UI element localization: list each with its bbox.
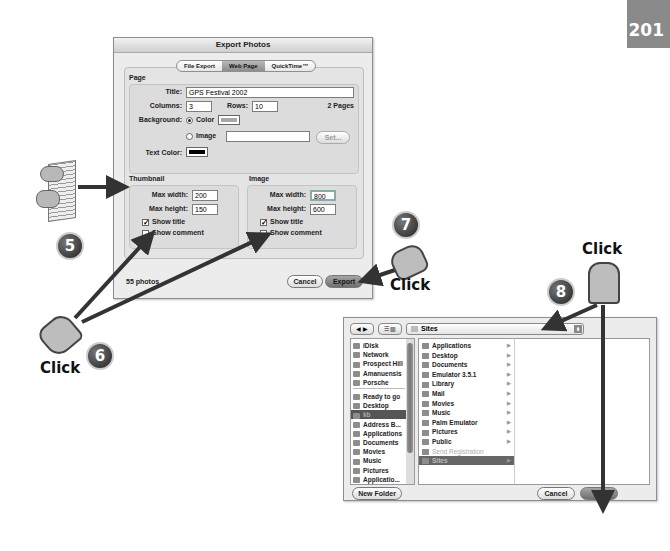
sidebar-item[interactable]: Amanuensis (353, 369, 402, 378)
browser-item[interactable]: Sites▶ (419, 456, 515, 465)
browser-item-label: Emulator 3.5.1 (432, 371, 476, 378)
sidebar-item-label: Prospect Hill (363, 360, 403, 367)
pages-count: 2 Pages (300, 102, 354, 109)
bg-color-radio[interactable] (186, 117, 193, 124)
disclosure-arrow-icon: ▶ (507, 341, 511, 350)
folder-icon (353, 413, 360, 419)
thumb-show-comment-label: Show comment (152, 229, 204, 236)
sidebar-list: iDiskNetworkProspect HillAmanuensisPorsc… (350, 338, 410, 485)
export-button[interactable]: Export (325, 275, 363, 288)
title-input[interactable]: GPS Festival 2002 (186, 87, 354, 98)
sidebar-item-label: Documents (363, 439, 398, 446)
click-label-7: Click (390, 276, 430, 294)
scrollbar-thumb[interactable] (407, 343, 413, 453)
folder-icon (422, 353, 429, 359)
browser-item-label: Movies (432, 400, 454, 407)
browser-item[interactable]: Send Registration (419, 447, 515, 456)
image-max-width-label: Max width: (248, 191, 306, 198)
image-max-height-input[interactable]: 600 (310, 204, 336, 215)
thumb-max-width-input[interactable]: 200 (192, 190, 218, 201)
disclosure-arrow-icon: ▶ (507, 427, 511, 436)
bg-image-radio[interactable] (186, 133, 193, 140)
thumb-show-title-label: Show title (152, 218, 185, 225)
sidebar-item[interactable]: Desktop (353, 401, 389, 410)
sidebar-item[interactable]: Movies (353, 447, 385, 456)
back-forward-buttons[interactable]: ◀ ▶ (350, 323, 374, 335)
disclosure-arrow-icon: ▶ (507, 408, 511, 417)
ok-button[interactable]: OK (580, 487, 618, 500)
browser-item[interactable]: Music▶ (419, 408, 515, 417)
disclosure-arrow-icon: ▶ (507, 389, 511, 398)
cancel-button[interactable]: Cancel (287, 275, 323, 288)
sidebar-item-label: Pictures (363, 467, 389, 474)
tab-quicktime[interactable]: QuickTime™ (265, 61, 316, 71)
step-8-badge: 8 (547, 278, 575, 306)
bg-image-path-input[interactable] (226, 131, 310, 142)
folder-icon (422, 449, 429, 455)
sidebar-item[interactable]: iDisk (353, 341, 379, 350)
folder-icon (353, 459, 360, 465)
tab-web-page[interactable]: Web Page (222, 61, 265, 71)
sidebar-item[interactable]: Network (353, 350, 389, 359)
browser-item-label: Sites (432, 457, 448, 464)
new-folder-button[interactable]: New Folder (352, 487, 402, 500)
thumbnail-heading: Thumbnail (129, 175, 164, 182)
columns-input[interactable]: 3 (186, 101, 212, 112)
thumb-max-height-input[interactable]: 150 (192, 204, 218, 215)
sidebar-item[interactable]: Applications (353, 429, 402, 438)
folder-icon (353, 422, 360, 428)
sidebar-item[interactable]: Prospect Hill (353, 359, 403, 368)
browser-item[interactable]: Palm Emulator▶ (419, 418, 515, 427)
browser-item-label: Applications (432, 342, 471, 349)
browser-item[interactable]: Movies▶ (419, 399, 515, 408)
folder-icon (422, 410, 429, 416)
image-show-comment-checkbox[interactable] (260, 230, 267, 237)
browser-item[interactable]: Emulator 3.5.1▶ (419, 370, 515, 379)
browser-item[interactable]: Pictures▶ (419, 427, 515, 436)
browser-column: Applications▶Desktop▶Documents▶Emulator … (418, 338, 516, 485)
set-button[interactable]: Set... (316, 131, 350, 144)
thumb-max-height-label: Max height: (130, 205, 188, 212)
browser-item[interactable]: Library▶ (419, 379, 515, 388)
bg-image-label: Image (196, 132, 216, 139)
rows-input[interactable]: 10 (252, 101, 278, 112)
browser-item-label: Send Registration (432, 448, 484, 455)
bg-color-swatch[interactable] (218, 115, 240, 125)
sidebar-divider (353, 388, 405, 389)
sidebar-item[interactable]: Applicatio... (353, 475, 400, 484)
folder-icon (422, 382, 429, 388)
image-show-comment-label: Show comment (270, 229, 322, 236)
folder-icon (353, 371, 360, 377)
location-label: Sites (421, 325, 438, 332)
browser-item[interactable]: Public▶ (419, 437, 515, 446)
sidebar-item-label: Amanuensis (363, 370, 402, 377)
disclosure-arrow-icon: ▶ (507, 351, 511, 360)
tab-file-export[interactable]: File Export (177, 61, 222, 71)
sidebar-item[interactable]: Documents (353, 438, 398, 447)
thumb-show-title-checkbox[interactable]: ✓ (142, 219, 149, 226)
sidebar-item[interactable]: Porsche (353, 378, 389, 387)
step-5-badge: 5 (56, 232, 84, 260)
sidebar-item[interactable]: Pictures (353, 466, 389, 475)
image-show-title-checkbox[interactable]: ✓ (260, 219, 267, 226)
browser-item-label: Pictures (432, 428, 458, 435)
browser-item[interactable]: Documents▶ (419, 360, 515, 369)
view-mode-buttons[interactable]: ☰ ▥ (378, 323, 402, 335)
sidebar-item[interactable]: Ready to go (353, 392, 400, 401)
background-label: Background: (130, 116, 182, 123)
chooser-cancel-button[interactable]: Cancel (537, 487, 575, 500)
location-popup[interactable]: Sites ⬍ (406, 323, 584, 335)
browser-item[interactable]: Mail▶ (419, 389, 515, 398)
browser-item[interactable]: Desktop▶ (419, 351, 515, 360)
sidebar-scrollbar[interactable] (406, 338, 415, 485)
disclosure-arrow-icon: ▶ (507, 456, 511, 465)
sidebar-item[interactable]: kb (351, 410, 409, 419)
thumb-show-comment-checkbox[interactable] (142, 230, 149, 237)
sidebar-item[interactable]: Music (353, 456, 381, 465)
browser-item[interactable]: Applications▶ (419, 341, 515, 350)
text-color-swatch[interactable] (186, 147, 208, 157)
image-max-width-input[interactable]: 800 (310, 190, 336, 201)
sidebar-item[interactable]: Address B... (353, 420, 401, 429)
disclosure-arrow-icon: ▶ (507, 370, 511, 379)
image-heading: Image (249, 175, 269, 182)
